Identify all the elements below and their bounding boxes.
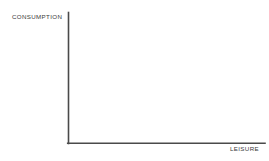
y-axis-label: CONSUMPTION (12, 14, 62, 20)
x-axis-label: LEISURE (230, 146, 259, 152)
figure-container: CONSUMPTION LEISURE (0, 0, 269, 161)
axes-lines (0, 0, 269, 161)
